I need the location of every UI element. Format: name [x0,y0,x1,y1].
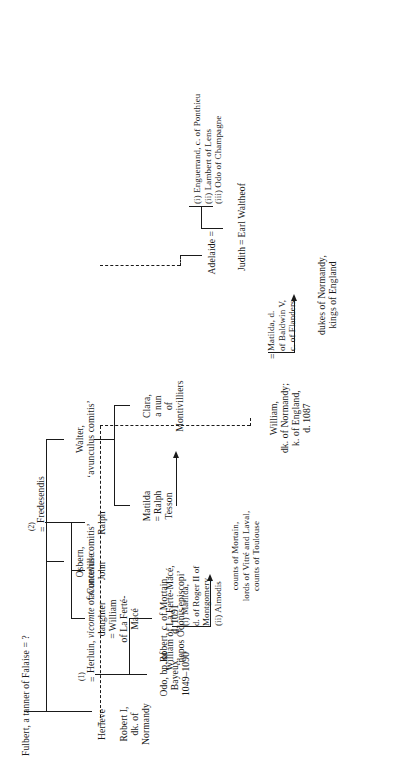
connector-matilda-tesson-descent [176,458,177,506]
node-osbern: Osbern, ‘avunculus comitis’ [64,513,97,611]
connector-dashed-to-adelaide [180,256,181,266]
node-clara-label: Clara, a nun of Montivilliers [141,380,185,431]
node-fulbert: Fulbert, a tanner of Falaise = ? [10,556,32,756]
connector-dashed-down-to-adelaide [100,265,180,266]
connector-daughter-descent [133,618,152,619]
connector-herleve-children-stem [95,674,129,675]
node-judith-label: Judith = Earl Waltheof [236,183,247,271]
node-judith: Judith = Earl Waltheof [226,168,248,286]
connector-mortain-descent [210,581,211,627]
arrow-matilda-tesson-descent [173,451,179,458]
connector-spine-to-walter [46,439,64,440]
node-clara: Clara, a nun of Montivilliers [131,368,186,444]
node-robert-i: Robert I, dk. of Normandy [108,676,152,772]
connector-dashed-to-william [250,418,251,426]
connector-to-daughter [71,618,85,619]
connector-fulbert-stem [24,711,46,712]
connector-william-marriage-bracket [268,352,294,353]
node-william-conqueror-label: William, dk. of Normandy; k. of England,… [268,383,312,453]
marriage-order-2: (2) [28,522,36,531]
node-matilda-flanders: Matilda, d. of Baldwin V, c. of Flanders [256,259,297,351]
node-mortain-descendants: counts of Mortain, lords of Vitré and La… [220,491,261,621]
node-adelaide-husbands: (i) Enguerrand, c. of Ponthieu (ii) Lamb… [182,54,223,204]
arrow-dukes-descent [291,294,297,301]
node-fulbert-label: Fulbert, a tanner of Falaise = ? [20,635,31,756]
node-matilda-tesson-label: Matilda = Ralph Tesson [141,491,174,522]
connector-walter-children-stem [94,439,114,440]
node-john-label: John [96,562,107,581]
node-herleve-label: Herleve [96,709,107,740]
node-ralph-label: Ralph [96,511,107,534]
node-adelaide-label: Adelaide = [206,231,217,274]
connector-spine-to-osbern [46,561,64,562]
node-matilda-flanders-label: Matilda, d. of Baldwin V, c. of Flanders [266,300,297,351]
node-fredesendis: Fredesendis [36,433,47,523]
connector-adelaide-marriages [201,207,202,229]
connector-adelaide-marriage-bracket [189,206,213,207]
marriage-order-1: (1) [78,672,86,681]
node-dukes-kings: dukes of Normandy, kings of England [306,230,339,360]
node-mortain-descendants-label: counts of Mortain, lords of Vitré and La… [230,511,261,602]
connector-walter-children-bar [114,406,115,506]
arrow-mortain-descent [207,574,213,581]
node-herleve: Herleve [86,682,108,740]
node-adelaide-husbands-label: (i) Enguerrand, c. of Ponthieu (ii) Lamb… [192,94,223,204]
node-robert-i-label: Robert I, dk. of Normandy [118,703,151,745]
node-william-ferte-mace: William of La Ferté-Macé, ‘nepos Odonis … [154,556,187,680]
connector-to-odo [129,674,147,675]
marriage-equals-fredesendis: = [38,527,48,532]
connector-to-matilda-tesson [114,505,130,506]
connector-dukes-descent [294,301,295,353]
node-daughter-label: daughter = William of La Ferté- Macé [96,596,140,643]
node-osbern-label: Osbern, ‘avunculus comitis’ [74,523,96,601]
marriage-equals-william: = [268,354,278,359]
node-fredesendis-label: Fredesendis [35,476,46,523]
connector-adelaide-to-judith [201,228,223,229]
node-william-conqueror: William, dk. of Normandy; k. of England,… [258,360,313,476]
node-matilda-tesson: Matilda = Ralph Tesson [131,472,175,540]
node-adelaide: Adelaide = [196,231,218,305]
node-william-ferte-mace-label: William of La Ferté-Macé, ‘nepos Odonis … [164,565,186,670]
node-walter-label: Walter, ‘avunculus comitis’ [74,400,96,478]
node-dukes-kings-label: dukes of Normandy, kings of England [316,255,338,335]
genealogy-chart: Fulbert, a tanner of Falaise = ? Robert … [0,0,405,774]
connector-to-clara [114,405,130,406]
node-walter: Walter, ‘avunculus comitis’ [64,390,97,488]
marriage-equals-herleve: = [88,677,98,682]
